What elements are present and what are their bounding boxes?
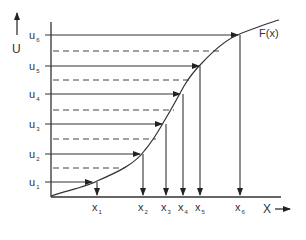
x-label-2: x2 [138,202,148,213]
u-label-2: u2 [29,149,39,160]
y-axis-label: U [12,43,21,55]
curve-label: F(x) [259,28,279,39]
u-label-3: u3 [29,119,39,130]
x-label-4: x4 [178,202,188,213]
u-label-1: u1 [29,177,39,188]
x-axis-label: X [263,203,271,215]
x-label-6: x6 [235,202,245,213]
x-label-5: x5 [195,202,205,213]
x-label-1: x1 [92,202,102,213]
u-label-5: u5 [29,61,39,72]
u-label-6: u6 [29,30,39,41]
cdf-curve [51,20,279,196]
u-label-4: u4 [29,89,39,100]
x-label-3: x3 [161,202,171,213]
u-level-lines [45,35,238,182]
